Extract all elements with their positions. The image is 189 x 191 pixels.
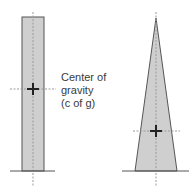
cog-label: Center of gravity (c of g): [61, 71, 109, 109]
rectangle-figure: [10, 12, 56, 186]
center-of-gravity-diagram: Center of gravity (c of g): [0, 0, 189, 191]
triangle-figure: [122, 12, 189, 186]
cog-label-line-3: (c of g): [61, 97, 95, 109]
cog-label-line-1: Center of: [61, 71, 107, 83]
cog-label-line-2: gravity: [61, 84, 94, 96]
